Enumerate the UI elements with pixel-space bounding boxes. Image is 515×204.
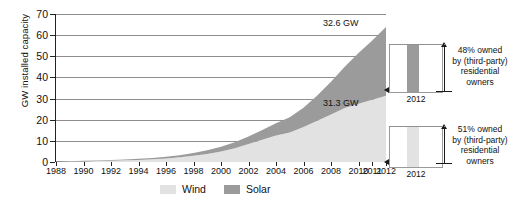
y-tick-50 bbox=[50, 56, 55, 57]
solar-ownership-bar bbox=[407, 45, 419, 92]
x-tick-label-2000: 2000 bbox=[211, 167, 231, 176]
y-tick-70 bbox=[50, 14, 55, 15]
solar-inset-top-guide bbox=[389, 44, 445, 45]
y-tick-60 bbox=[50, 35, 55, 36]
plot-area: 010203040506070 198819901992199419961998… bbox=[55, 14, 385, 162]
y-tick-label-30: 30 bbox=[36, 93, 48, 104]
wind-value-label: 31.3 GW bbox=[323, 98, 359, 108]
y-tick-0 bbox=[50, 162, 55, 163]
y-tick-label-50: 50 bbox=[36, 51, 48, 62]
legend-item-wind: Wind bbox=[160, 183, 206, 195]
legend-label-solar: Solar bbox=[246, 183, 271, 195]
wind-ownership-inset: 2012 bbox=[389, 126, 443, 168]
x-tick-label-1998: 1998 bbox=[183, 167, 203, 176]
wind-ownership-annotation: 51% owned by (third-party) residential o… bbox=[447, 124, 513, 166]
chart-figure: GW installed capacity 010203040506070 19… bbox=[0, 0, 515, 204]
stacked-area-series bbox=[56, 14, 386, 162]
y-tick-label-40: 40 bbox=[36, 72, 48, 83]
wind-annot-line-1: 51% owned bbox=[447, 124, 513, 135]
x-tick-label-1992: 1992 bbox=[101, 167, 121, 176]
wind-inset-year-label: 2012 bbox=[390, 169, 442, 179]
legend-swatch-wind bbox=[160, 185, 176, 194]
solar-ownership-annotation: 48% owned by (third-party) residential o… bbox=[447, 45, 513, 87]
solar-annot-line-2: by (third-party) bbox=[447, 56, 513, 67]
wind-annot-line-2: by (third-party) bbox=[447, 135, 513, 146]
y-tick-40 bbox=[50, 77, 55, 78]
x-tick-label-2004: 2004 bbox=[266, 167, 286, 176]
y-tick-label-70: 70 bbox=[36, 9, 48, 20]
wind-annot-line-3: residential bbox=[447, 145, 513, 156]
x-tick-label-2008: 2008 bbox=[321, 167, 341, 176]
chart-legend: Wind Solar bbox=[160, 183, 270, 195]
y-tick-30 bbox=[50, 99, 55, 100]
solar-inset-year-label: 2012 bbox=[390, 94, 442, 104]
solar-share-measure-base bbox=[436, 91, 452, 92]
y-axis-title: GW installed capacity bbox=[19, 0, 30, 131]
y-tick-20 bbox=[50, 120, 55, 121]
x-tick-label-1988: 1988 bbox=[46, 167, 66, 176]
solar-ownership-inset: 2012 bbox=[389, 44, 443, 93]
x-tick-label-2002: 2002 bbox=[238, 167, 258, 176]
solar-share-measure-arrow bbox=[444, 46, 445, 91]
solar-value-label: 32.6 GW bbox=[323, 18, 359, 28]
solar-annot-line-1: 48% owned bbox=[447, 45, 513, 56]
y-tick-label-60: 60 bbox=[36, 30, 48, 41]
x-tick-label-1994: 1994 bbox=[128, 167, 148, 176]
x-tick-label-1996: 1996 bbox=[156, 167, 176, 176]
legend-swatch-solar bbox=[224, 185, 240, 194]
wind-ownership-bar bbox=[407, 127, 419, 167]
y-tick-10 bbox=[50, 141, 55, 142]
wind-share-measure-arrow bbox=[444, 128, 445, 163]
wind-annot-line-4: owners bbox=[447, 156, 513, 167]
x-tick-label-2006: 2006 bbox=[293, 167, 313, 176]
y-tick-label-10: 10 bbox=[36, 136, 48, 147]
legend-label-wind: Wind bbox=[182, 183, 206, 195]
solar-annot-line-3: residential bbox=[447, 66, 513, 77]
y-tick-label-20: 20 bbox=[36, 114, 48, 125]
solar-annot-line-4: owners bbox=[447, 77, 513, 88]
legend-item-solar: Solar bbox=[224, 183, 271, 195]
x-tick-label-1990: 1990 bbox=[73, 167, 93, 176]
wind-inset-top-guide bbox=[389, 126, 445, 127]
